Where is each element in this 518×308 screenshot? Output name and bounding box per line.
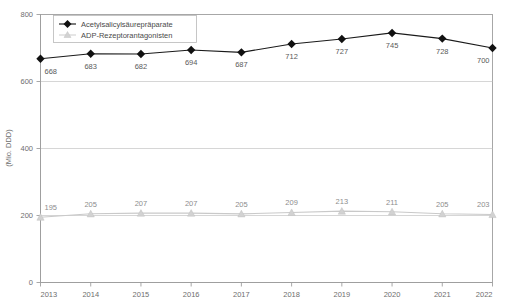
- data-label: 687: [235, 60, 248, 69]
- data-label: 195: [45, 203, 58, 212]
- data-label: 207: [185, 199, 198, 208]
- y-axis-title: (Mio. DDD): [4, 129, 13, 167]
- data-point-marker: [187, 46, 195, 54]
- data-point-marker: [36, 55, 44, 63]
- x-tick-label-2013: 2013: [41, 290, 58, 299]
- x-tick-label-2019: 2019: [333, 290, 350, 299]
- x-tick-label-2021: 2021: [434, 290, 451, 299]
- x-tick-label-2014: 2014: [82, 290, 99, 299]
- y-tick-label-0: 0: [29, 278, 33, 287]
- y-tick-label-800: 800: [20, 10, 33, 19]
- data-label: 694: [185, 58, 198, 67]
- y-tick-label-400: 400: [20, 144, 33, 153]
- legend-label-a: Acetylsalicylsäurepräparate: [81, 20, 173, 29]
- data-point-marker: [488, 44, 496, 52]
- series-data-labels-adp-rezeptorantagonisten: 195205207207205209213211205203: [45, 197, 490, 212]
- data-point-marker: [388, 29, 396, 37]
- chart-canvas: 800 600 400 200 0 (Mio. DDD) 20132014201…: [0, 0, 518, 308]
- data-label: 668: [45, 67, 58, 76]
- y-tick-marks: [37, 15, 41, 283]
- series-line-adp-rezeptorantagonisten: [41, 211, 493, 217]
- x-tick-label-2022: 2022: [476, 290, 493, 299]
- data-label: 728: [436, 47, 449, 56]
- x-tick-labels: 2013201420152016201720182019202020212022: [41, 290, 493, 299]
- data-label: 712: [285, 52, 298, 61]
- data-point-marker: [438, 34, 446, 42]
- series-data-labels-acetylsalicylsaeurepraeparate: 668683682694687712727745728700: [45, 41, 490, 76]
- data-point-marker: [87, 49, 95, 57]
- x-tick-marks: [41, 283, 493, 287]
- data-label: 203: [477, 200, 490, 209]
- x-tick-label-2020: 2020: [384, 290, 401, 299]
- data-point-marker: [287, 40, 295, 48]
- legend: Acetylsalicylsäurepräparate ADP-Rezeptor…: [54, 16, 197, 43]
- legend-label-b: ADP-Rezeptorantagonisten: [81, 31, 172, 40]
- data-point-marker: [338, 35, 346, 43]
- data-label: 745: [386, 41, 399, 50]
- data-label: 683: [84, 62, 97, 71]
- x-tick-label-2016: 2016: [183, 290, 200, 299]
- x-tick-label-2017: 2017: [233, 290, 250, 299]
- gridlines: [41, 82, 493, 216]
- data-point-marker: [237, 48, 245, 56]
- data-label: 682: [135, 62, 148, 71]
- data-label: 205: [84, 200, 97, 209]
- data-label: 213: [336, 197, 349, 206]
- x-tick-label-2015: 2015: [133, 290, 150, 299]
- x-tick-label-2018: 2018: [283, 290, 300, 299]
- y-tick-labels: 800 600 400 200 0: [20, 10, 33, 287]
- data-label: 209: [285, 198, 298, 207]
- y-tick-label-200: 200: [20, 211, 33, 220]
- data-label: 727: [336, 47, 349, 56]
- data-label: 205: [235, 200, 248, 209]
- data-point-marker: [137, 50, 145, 58]
- line-chart: 800 600 400 200 0 (Mio. DDD) 20132014201…: [0, 0, 518, 308]
- data-label: 700: [477, 56, 490, 65]
- data-label: 205: [436, 200, 449, 209]
- y-tick-label-600: 600: [20, 77, 33, 86]
- data-label: 211: [386, 198, 398, 207]
- data-label: 207: [135, 199, 148, 208]
